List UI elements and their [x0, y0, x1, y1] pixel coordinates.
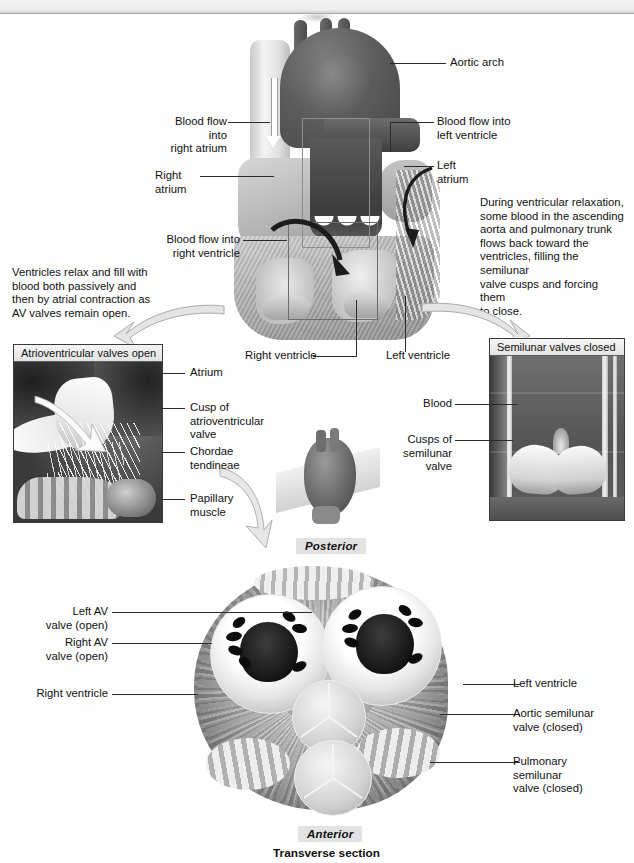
- label-left-ventricle-transverse: Left ventricle: [513, 677, 577, 691]
- label-chordae-tendineae: Chordae tendineae: [190, 445, 240, 472]
- label-blood-flow-right-atrium: Blood flow into right atrium: [155, 115, 227, 156]
- leader-blood: [455, 404, 517, 405]
- inset-right-title: Semilunar valves closed: [490, 339, 624, 356]
- leader-blood-flow-right-ventricle: [243, 240, 287, 241]
- left-av-valve-opening: [356, 614, 414, 674]
- vessel-floor: [490, 497, 624, 520]
- label-aortic-semilunar-valve: Aortic semilunar valve (closed): [513, 707, 594, 734]
- label-right-ventricle: Right ventricle: [245, 349, 317, 363]
- vessel-highlight-2: [602, 356, 608, 520]
- leader-right-ventricle-transverse: [112, 694, 198, 695]
- epicardial-fat-bottom-left: [206, 738, 290, 790]
- av-flow-arrow: [32, 391, 109, 465]
- papillary-muscle-shape: [17, 477, 121, 519]
- label-right-ventricle-transverse: Right ventricle: [30, 687, 108, 701]
- vessel-highlight-3: [613, 356, 617, 520]
- right-av-valve-opening: [240, 622, 298, 682]
- aortic-arch-lumen: [304, 54, 374, 120]
- orientation-heart-thumbnail: [282, 432, 378, 522]
- vessel-wall-left: [490, 356, 509, 520]
- leader-papillary-muscle: [161, 499, 185, 500]
- vessel-highlight-1: [507, 356, 512, 520]
- label-aortic-arch: Aortic arch: [450, 56, 504, 70]
- label-left-av-valve: Left AV valve (open): [40, 605, 108, 632]
- leader-aortic-arch: [390, 63, 446, 64]
- label-blood-flow-left-ventricle: Blood flow into left ventricle: [437, 115, 510, 142]
- leader-aortic-semilunar-valve: [440, 714, 520, 715]
- transverse-section-illustration: [188, 562, 454, 820]
- leader-left-ventricle-transverse: [463, 684, 520, 685]
- leader-cusps-semilunar-valve: [455, 440, 513, 441]
- leader-right-av-valve: [112, 643, 212, 644]
- inset-atrioventricular-valves-open: Atrioventricular valves open: [13, 344, 163, 523]
- label-left-atrium: Left atrium: [437, 159, 468, 186]
- heart-coronal-illustration: [228, 20, 448, 350]
- label-cusp-av-valve: Cusp of atrioventricular valve: [190, 401, 264, 442]
- inset-right-artwork: [490, 356, 624, 520]
- leader-pulmonary-semilunar-valve: [430, 762, 520, 763]
- scan-band-1: [490, 392, 624, 394]
- leader-left-av-valve: [112, 612, 312, 613]
- leader-blood-flow-left-ventricle-drop: [390, 122, 391, 152]
- inset-left-artwork: [14, 362, 162, 522]
- leader-right-atrium: [200, 176, 274, 177]
- leader-atrium: [161, 373, 185, 374]
- pulmonary-semilunar-valve: [294, 740, 372, 816]
- thumbnail-vessel-inferior: [312, 506, 340, 524]
- leader-blood-flow-left-ventricle: [390, 122, 434, 123]
- leader-left-atrium: [404, 166, 434, 167]
- leader-right-ventricle-riser: [356, 300, 357, 357]
- leader-left-ventricle: [405, 296, 406, 352]
- leader-chordae-tendineae: [161, 452, 185, 453]
- leader-blood-flow-right-atrium: [228, 122, 270, 123]
- label-blood: Blood: [420, 397, 452, 411]
- orientation-posterior: Posterior: [296, 538, 366, 554]
- figure-caption: Transverse section: [273, 846, 380, 860]
- label-cusps-semilunar-valve: Cusps of semilunar valve: [397, 433, 452, 474]
- papillary-muscle-shape-2: [106, 479, 156, 517]
- orientation-anterior: Anterior: [298, 826, 362, 842]
- label-papillary-muscle: Papillary muscle: [190, 492, 233, 519]
- label-pulmonary-semilunar-valve: Pulmonary semilunar valve (closed): [513, 755, 583, 796]
- leader-right-ventricle: [313, 356, 357, 357]
- label-right-av-valve: Right AV valve (open): [37, 636, 108, 663]
- inset-left-title: Atrioventricular valves open: [14, 345, 162, 362]
- leader-cusp-av-valve: [161, 408, 185, 409]
- label-right-atrium: Right atrium: [155, 169, 186, 196]
- thumbnail-great-vessel-2: [330, 428, 339, 452]
- inset-semilunar-valves-closed: Semilunar valves closed: [489, 338, 625, 521]
- flow-arrow-right-ventricle: [266, 216, 358, 288]
- figure-page: Aortic arch Blood flow into right atrium…: [0, 0, 634, 863]
- label-atrium: Atrium: [190, 366, 223, 380]
- thumbnail-great-vessel-1: [316, 430, 326, 452]
- label-blood-flow-right-ventricle: Blood flow into right ventricle: [160, 233, 240, 260]
